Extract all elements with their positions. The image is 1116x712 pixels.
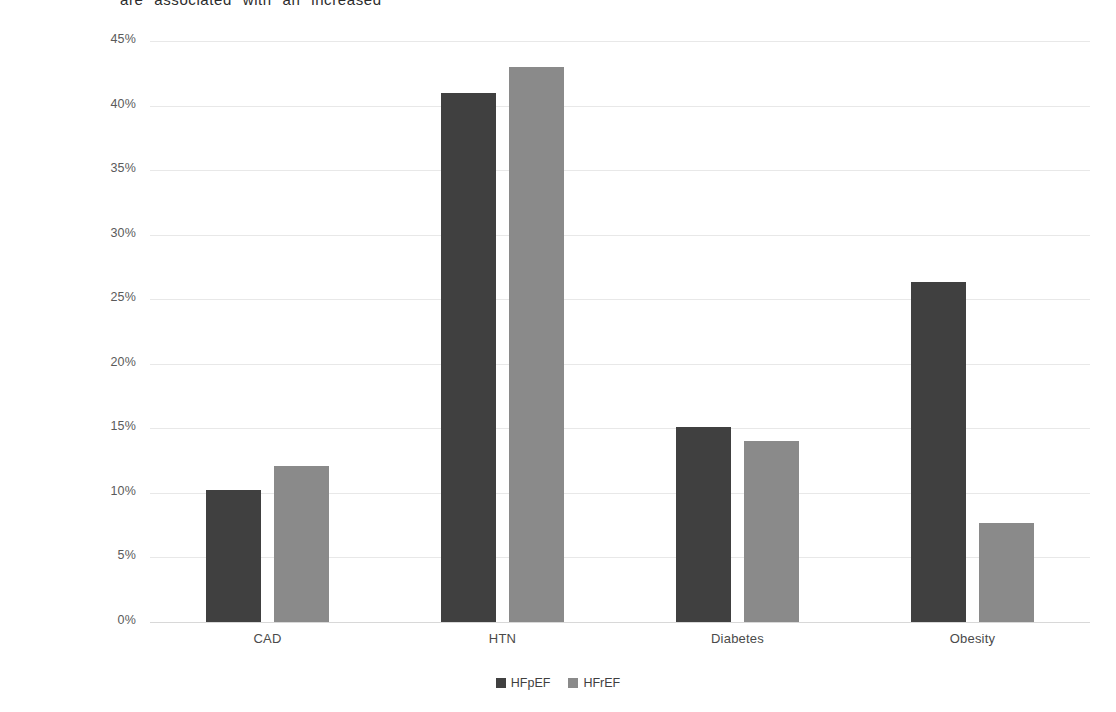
bar-cad-hfref — [274, 466, 329, 622]
bar-obesity-hfref — [979, 523, 1034, 622]
bar-chart-figure: Population Attributable Risk 0%5%10%15%2… — [0, 0, 1116, 712]
y-axis-tick-label: 35% — [74, 161, 136, 175]
bar-htn-hfref — [509, 67, 564, 622]
legend-swatch-icon — [568, 678, 578, 688]
gridline — [150, 41, 1090, 42]
x-axis-tick-label: Obesity — [893, 631, 1053, 646]
bar-obesity-hfpef — [911, 282, 966, 622]
x-axis-tick-label: HTN — [423, 631, 583, 646]
y-axis-tick-label: 20% — [74, 355, 136, 369]
y-axis-tick-label: 15% — [74, 419, 136, 433]
y-axis-tick-label: 10% — [74, 484, 136, 498]
gridline — [150, 622, 1090, 623]
bar-diabetes-hfref — [744, 441, 799, 622]
gridline — [150, 235, 1090, 236]
y-axis-tick-label: 40% — [74, 97, 136, 111]
chart-legend: HFpEFHFrEF — [0, 676, 1116, 690]
bar-diabetes-hfpef — [676, 427, 731, 622]
legend-item-hfref[interactable]: HFrEF — [568, 676, 620, 690]
legend-item-hfpef[interactable]: HFpEF — [496, 676, 551, 690]
x-axis-tick-label: CAD — [188, 631, 348, 646]
y-axis-tick-label: 5% — [74, 548, 136, 562]
legend-swatch-icon — [496, 678, 506, 688]
bar-htn-hfpef — [441, 93, 496, 622]
y-axis-tick-label: 0% — [74, 613, 136, 627]
plot-area: 0%5%10%15%20%25%30%35%40%45%CADHTNDiabet… — [150, 41, 1090, 622]
y-axis-tick-label: 30% — [74, 226, 136, 240]
legend-label: HFrEF — [583, 676, 620, 690]
y-axis-tick-label: 25% — [74, 290, 136, 304]
gridline — [150, 170, 1090, 171]
x-axis-tick-label: Diabetes — [658, 631, 818, 646]
gridline — [150, 106, 1090, 107]
bar-cad-hfpef — [206, 490, 261, 622]
legend-label: HFpEF — [511, 676, 551, 690]
y-axis-tick-label: 45% — [74, 32, 136, 46]
